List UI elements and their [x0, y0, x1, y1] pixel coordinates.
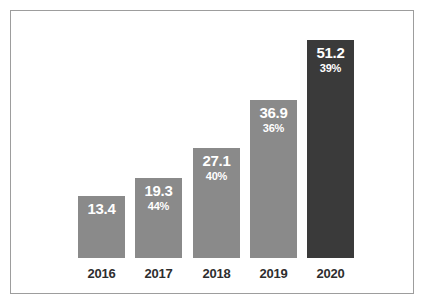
bar-label-block-2020: 51.2 39% [307, 45, 354, 74]
bar-value-2020: 51.2 [307, 45, 354, 60]
bar-growth-2018: 40% [193, 171, 240, 182]
bar-2020: 51.2 39% [307, 40, 354, 258]
x-tick-label-2016: 2016 [78, 266, 125, 281]
x-tick-label-2018: 2018 [193, 266, 240, 281]
x-tick-label-2020: 2020 [307, 266, 354, 281]
bar-label-block-2019: 36.9 36% [250, 105, 297, 134]
bar-growth-2017: 44% [135, 201, 182, 212]
x-tick-label-2019: 2019 [250, 266, 297, 281]
bar-value-2018: 27.1 [193, 153, 240, 168]
bar-2019: 36.9 36% [250, 100, 297, 258]
bar-chart: 13.4 2016 19.3 44% 2017 27.1 40% [0, 0, 425, 306]
x-tick-label-2017: 2017 [135, 266, 182, 281]
bar-value-2016: 13.4 [78, 201, 125, 216]
bar-2018: 27.1 40% [193, 148, 240, 258]
bar-2017: 19.3 44% [135, 178, 182, 258]
bar-label-block-2017: 19.3 44% [135, 183, 182, 212]
bar-value-2019: 36.9 [250, 105, 297, 120]
bar-2016: 13.4 [78, 196, 125, 258]
bar-label-block-2016: 13.4 [78, 201, 125, 216]
bar-growth-2020: 39% [307, 63, 354, 74]
bar-growth-2019: 36% [250, 123, 297, 134]
bar-value-2017: 19.3 [135, 183, 182, 198]
plot-area: 13.4 2016 19.3 44% 2017 27.1 40% [0, 0, 425, 306]
bar-label-block-2018: 27.1 40% [193, 153, 240, 182]
